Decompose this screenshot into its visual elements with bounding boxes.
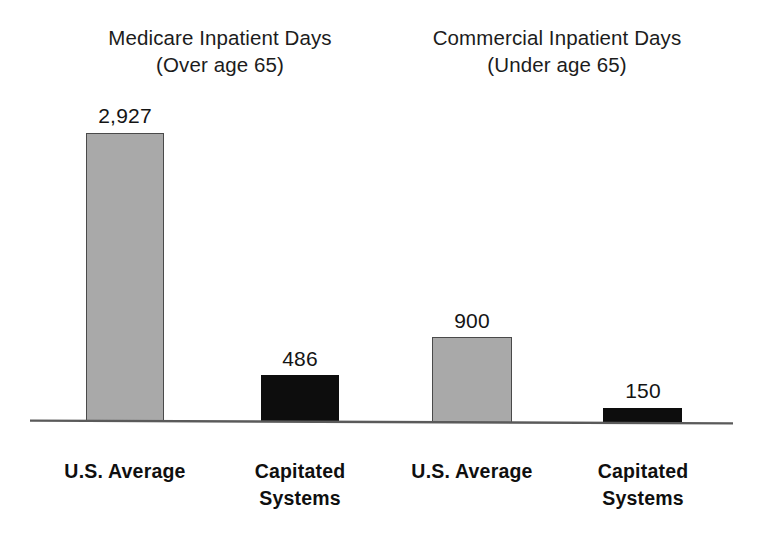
value-label-bar-4: 150 [564, 379, 722, 403]
bar-medicare-capitated-systems [261, 375, 339, 422]
category-label-line1: U.S. Average [411, 460, 532, 482]
value-label-bar-3: 900 [393, 309, 551, 333]
group-title-medicare-line2: (Over age 65) [62, 51, 378, 78]
category-label-line1: Capitated [598, 460, 689, 482]
category-label-medicare-capitated-systems: Capitated Systems [221, 458, 379, 512]
category-label-line1: Capitated [255, 460, 346, 482]
group-title-medicare: Medicare Inpatient Days (Over age 65) [62, 24, 378, 78]
group-title-commercial-line1: Commercial Inpatient Days [392, 24, 722, 51]
group-title-medicare-line1: Medicare Inpatient Days [62, 24, 378, 51]
value-label-bar-1: 2,927 [46, 104, 204, 128]
category-label-commercial-us-average: U.S. Average [393, 458, 551, 485]
category-label-medicare-us-average: U.S. Average [46, 458, 204, 485]
bar-medicare-us-average [86, 133, 164, 422]
category-label-line1: U.S. Average [64, 460, 185, 482]
x-axis-baseline [30, 419, 733, 424]
group-title-commercial: Commercial Inpatient Days (Under age 65) [392, 24, 722, 78]
bar-chart-figure: Medicare Inpatient Days (Over age 65) Co… [0, 0, 761, 536]
group-title-commercial-line2: (Under age 65) [392, 51, 722, 78]
bar-commercial-us-average [432, 337, 512, 423]
category-label-line2: Systems [221, 485, 379, 512]
category-label-line2: Systems [564, 485, 722, 512]
value-label-bar-2: 486 [221, 347, 379, 371]
category-label-commercial-capitated-systems: Capitated Systems [564, 458, 722, 512]
